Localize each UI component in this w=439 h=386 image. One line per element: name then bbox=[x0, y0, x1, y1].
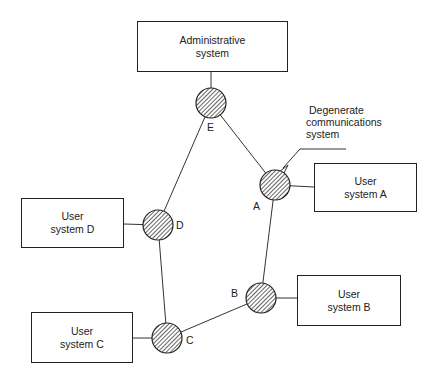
administrative-system-box: Administrativesystem bbox=[137, 21, 288, 72]
link-e-d bbox=[158, 103, 211, 225]
user-system-a-box: Usersystem A bbox=[314, 163, 417, 212]
box-label: User bbox=[344, 175, 387, 188]
annotation-degenerate-communications-system: Degenerate communications system bbox=[306, 104, 382, 140]
node-label-d: D bbox=[176, 219, 184, 231]
node-label-a: A bbox=[253, 200, 260, 212]
box-label: system A bbox=[344, 188, 387, 201]
user-system-b-box: Usersystem B bbox=[297, 275, 401, 326]
box-label: User bbox=[51, 210, 95, 223]
link-d-c bbox=[158, 225, 167, 338]
node-label-e: E bbox=[207, 121, 214, 133]
user-system-d-box: Usersystem D bbox=[21, 198, 124, 248]
annotation-line: communications bbox=[306, 116, 382, 128]
node-e bbox=[196, 88, 226, 118]
user-system-c-box: Usersystem C bbox=[31, 312, 133, 363]
node-a bbox=[260, 170, 290, 200]
box-label: system B bbox=[327, 301, 370, 314]
box-label: User bbox=[327, 288, 370, 301]
link-e-a bbox=[211, 103, 275, 185]
box-label: system C bbox=[60, 338, 104, 351]
box-label: Administrative bbox=[180, 34, 246, 47]
node-d bbox=[143, 210, 173, 240]
annotation-line: Degenerate bbox=[306, 104, 382, 116]
node-c bbox=[152, 323, 182, 353]
node-label-b: B bbox=[231, 287, 238, 299]
box-label: system bbox=[180, 47, 246, 60]
node-label-c: C bbox=[186, 334, 194, 346]
box-label: system D bbox=[51, 223, 95, 236]
node-b bbox=[246, 283, 276, 313]
link-a-b bbox=[261, 185, 275, 298]
annotation-line: system bbox=[306, 128, 382, 140]
box-label: User bbox=[60, 325, 104, 338]
